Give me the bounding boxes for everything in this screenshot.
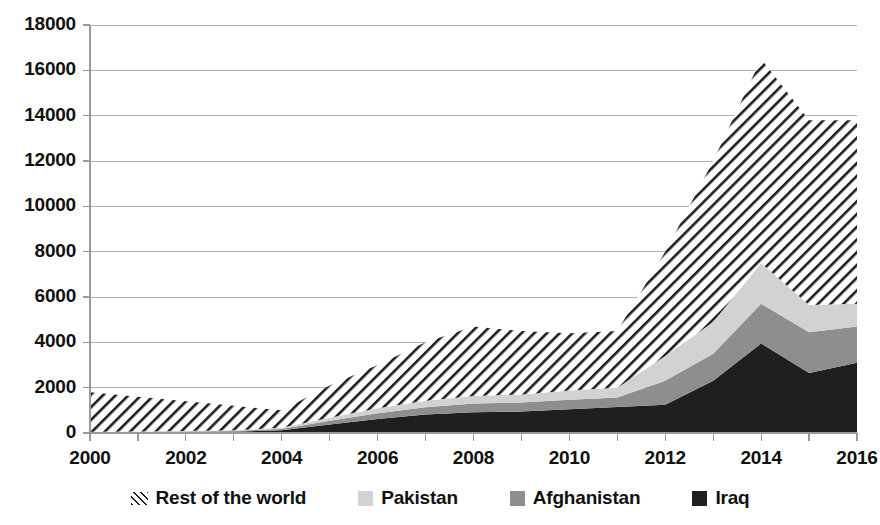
legend-item-iraq[interactable]: Iraq [692,487,749,509]
hatch-swatch [131,492,148,505]
afghanistan-swatch [510,491,525,506]
y-tick-label: 14000 [0,104,76,126]
iraq-swatch [692,491,707,506]
x-tick-label: 2016 [812,447,880,469]
x-tick-label: 2008 [429,447,519,469]
legend-label: Afghanistan [533,487,641,509]
y-tick-label: 2000 [0,376,76,398]
y-tick-label: 6000 [0,285,76,307]
legend-label: Iraq [715,487,749,509]
legend-item-pakistan[interactable]: Pakistan [358,487,458,509]
chart-legend: Rest of the worldPakistanAfghanistanIraq [0,477,880,519]
legend-item-rest-of-the-world[interactable]: Rest of the world [131,487,307,509]
x-tick-label: 2000 [45,447,135,469]
x-tick-label: 2010 [524,447,614,469]
y-tick-label: 8000 [0,240,76,262]
stacked-area-chart: 0200040006000800010000120001400016000180… [0,0,880,525]
y-tick-label: 10000 [0,194,76,216]
y-tick-label: 12000 [0,149,76,171]
y-tick-label: 0 [0,421,76,443]
y-tick-label: 16000 [0,58,76,80]
x-axis-ticks [90,433,857,441]
y-tick-label: 18000 [0,13,76,35]
x-tick-label: 2006 [333,447,423,469]
y-axis-ticks [83,25,90,433]
legend-label: Pakistan [381,487,458,509]
x-tick-label: 2012 [620,447,710,469]
area-series-group [90,59,857,433]
x-tick-label: 2014 [716,447,806,469]
x-tick-label: 2002 [141,447,231,469]
pakistan-swatch [358,491,373,506]
y-tick-label: 4000 [0,330,76,352]
legend-label: Rest of the world [156,487,307,509]
x-tick-label: 2004 [237,447,327,469]
legend-item-afghanistan[interactable]: Afghanistan [510,487,641,509]
